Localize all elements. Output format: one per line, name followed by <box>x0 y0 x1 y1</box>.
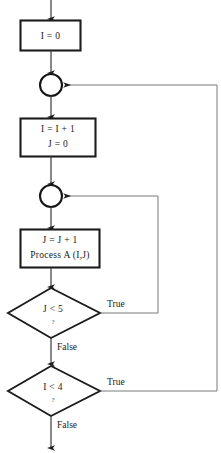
edge-decision-i-false: False <box>51 416 77 448</box>
edge-decision-j-false: False <box>51 338 77 364</box>
edge-label-i-true: True <box>107 377 125 387</box>
node-process-a-line2: Process A (I,J) <box>30 250 90 261</box>
node-decision-i-condition: I < 4 <box>43 382 63 392</box>
node-increment-i-line2: J = 0 <box>48 139 68 149</box>
node-increment-i: I = I + 1 J = 0 <box>21 119 96 157</box>
node-decision-i-marker: ? <box>51 396 54 404</box>
edge-label-j-true: True <box>107 299 125 309</box>
edge-label-j-false: False <box>57 342 77 352</box>
edge-label-i-false: False <box>57 420 77 430</box>
node-process-a: J = J + 1 Process A (I,J) <box>21 230 100 268</box>
node-connector-outer <box>40 74 62 96</box>
node-init-i: I = 0 <box>21 21 81 51</box>
node-decision-j-marker: ? <box>51 318 54 326</box>
node-connector-inner <box>40 185 62 207</box>
node-decision-j: J < 5 ? <box>8 288 100 338</box>
node-decision-i: I < 4 ? <box>8 366 100 416</box>
flowchart-svg: I = 0 I = I + 1 J = 0 <box>0 0 221 453</box>
node-increment-i-line1: I = I + 1 <box>41 124 75 134</box>
node-decision-j-condition: J < 5 <box>43 304 63 314</box>
node-process-a-line1: J = J + 1 <box>42 235 77 245</box>
flowchart-canvas: I = 0 I = I + 1 J = 0 <box>0 0 221 453</box>
node-init-i-label: I = 0 <box>41 31 61 41</box>
